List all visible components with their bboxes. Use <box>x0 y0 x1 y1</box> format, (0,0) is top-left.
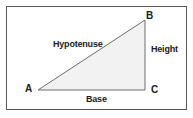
side-label-hypotenuse: Hypotenuse <box>53 40 103 49</box>
triangle-diagram: A B C Hypotenuse Height Base <box>0 0 193 118</box>
side-label-base: Base <box>86 95 107 104</box>
vertex-label-a: A <box>25 84 32 94</box>
vertex-label-c: C <box>151 85 158 95</box>
vertex-label-b: B <box>146 11 153 21</box>
side-label-height: Height <box>151 45 178 54</box>
